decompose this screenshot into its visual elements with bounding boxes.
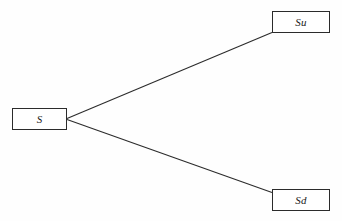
node-su-label: Su [295, 17, 306, 28]
diagram-canvas: S Su Sd [0, 0, 342, 221]
node-s-label: S [37, 114, 43, 125]
edge-down-line [67, 120, 272, 193]
node-s[interactable]: S [12, 108, 67, 130]
node-su[interactable]: Su [272, 11, 330, 33]
edge-up-line [67, 33, 272, 119]
node-sd[interactable]: Sd [272, 189, 330, 211]
node-sd-label: Sd [295, 195, 306, 206]
